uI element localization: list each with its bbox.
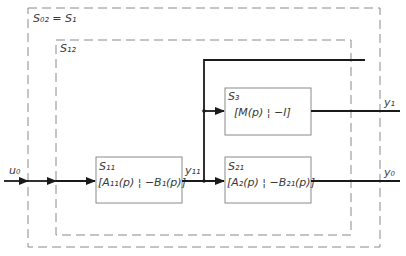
outer-system-label: S₀₂ = S₁ xyxy=(33,12,76,25)
block-s3: S₃ [M(p) ¦ −I] xyxy=(225,88,311,135)
input-signal-label: u₀ xyxy=(9,164,21,177)
block-s3-name: S₃ xyxy=(228,90,240,103)
inner-system-label: S₁₂ xyxy=(60,42,76,55)
block-s3-formula: [M(p) ¦ −I] xyxy=(234,106,291,119)
block-diagram: S₀₂ = S₁ S₁₂ u₀ S₁₁ [A₁₁(p) ¦ −B₁(p)] y₁… xyxy=(0,0,406,256)
intermediate-signal-label: y₁₁ xyxy=(184,164,200,177)
block-s11-name: S₁₁ xyxy=(99,160,115,173)
block-s21: S₂₁ [A₂(p) ¦ −B₂₁(p)] xyxy=(225,157,315,203)
block-s11-formula: [A₁₁(p) ¦ −B₁(p)] xyxy=(98,176,186,189)
block-s21-formula: [A₂(p) ¦ −B₂₁(p)] xyxy=(227,176,315,189)
branch-junction-s3 xyxy=(202,109,206,113)
output-1-label: y₁ xyxy=(383,96,395,109)
block-s11: S₁₁ [A₁₁(p) ¦ −B₁(p)] xyxy=(96,157,186,203)
output-0-label: y₀ xyxy=(383,166,396,179)
block-s21-name: S₂₁ xyxy=(228,160,244,173)
